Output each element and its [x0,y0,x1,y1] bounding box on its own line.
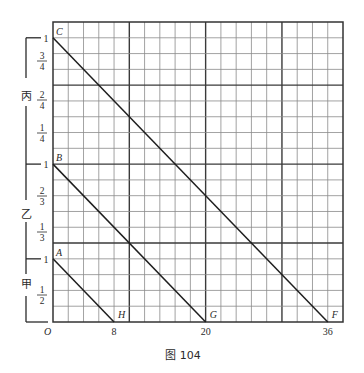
origin-label: O [44,326,51,337]
fraction-numerator: 1 [40,123,45,133]
fraction-numerator: 2 [40,90,45,100]
point-label-f: F [331,309,339,320]
unit-label: 1 [44,254,49,265]
worker-progress-diagram: 丙1342414乙12313甲112 O82036 CFBGAH 图 104 [0,0,364,373]
section-label: 甲 [21,278,32,291]
fraction-denominator: 4 [40,134,45,144]
point-label-h: H [117,309,126,320]
fraction-numerator: 1 [40,222,45,232]
fraction-numerator: 1 [40,285,45,295]
fraction-denominator: 3 [40,233,45,243]
x-tick-label: 8 [112,326,117,337]
point-labels: CFBGAH [55,26,339,320]
point-label-a: A [55,247,63,258]
section-label: 乙 [21,208,32,221]
point-label-c: C [56,26,63,37]
x-tick-label: 36 [323,326,333,337]
point-label-b: B [56,152,62,163]
y-axis-labels: 丙1342414乙12313甲112 [21,33,49,306]
unit-label: 1 [44,33,49,44]
x-axis-labels: O82036 [44,326,333,337]
figure-caption: 图 104 [165,349,201,362]
fraction-numerator: 3 [40,51,45,61]
fraction-denominator: 3 [40,197,45,207]
unit-label: 1 [44,159,49,170]
fraction-numerator: 2 [40,186,45,196]
section-label: 丙 [21,90,32,103]
fraction-denominator: 4 [40,101,45,111]
point-label-g: G [210,309,217,320]
grid-frame [53,22,343,322]
grid [53,22,343,322]
fraction-denominator: 4 [40,62,45,72]
fraction-denominator: 2 [40,296,45,306]
x-tick-label: 20 [201,326,211,337]
